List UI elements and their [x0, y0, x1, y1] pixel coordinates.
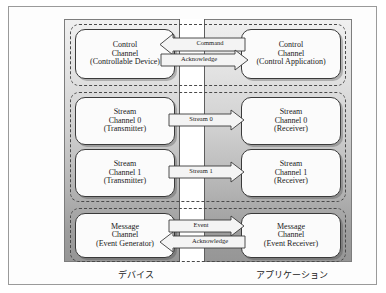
arrow-acknowledge-message-label: Acknowledge: [179, 238, 241, 245]
arrow-event: Event: [169, 218, 245, 234]
node-line-3: (Control Application): [256, 58, 325, 67]
node-line-3: (Receiver): [274, 177, 308, 186]
arrow-acknowledge-control: Acknowledge: [161, 52, 249, 68]
arrow-event-label: Event: [174, 222, 228, 229]
arrow-acknowledge-control-label: Acknowledge: [167, 56, 231, 63]
arrow-command-label: Command: [179, 40, 241, 47]
node-line-3: (Controllable Device): [90, 58, 160, 67]
arrow-stream-0-label: Stream 0: [174, 116, 228, 123]
node-stream-channel-1-transmitter[interactable]: Stream Channel 1 (Transmitter): [75, 149, 175, 197]
figure-frame: Control Channel (Controllable Device) Co…: [8, 6, 377, 285]
arrow-command: Command: [159, 37, 245, 52]
node-stream-channel-0-receiver[interactable]: Stream Channel 0 (Receiver): [241, 97, 341, 145]
region-label-application: アプリケーション: [237, 268, 347, 281]
arrow-stream-1: Stream 1: [169, 164, 245, 180]
node-line-3: (Receiver): [274, 125, 308, 134]
figure-root: Control Channel (Controllable Device) Co…: [0, 0, 386, 293]
node-stream-channel-1-receiver[interactable]: Stream Channel 1 (Receiver): [241, 149, 341, 197]
arrow-stream-1-label: Stream 1: [174, 168, 228, 175]
arrow-stream-0: Stream 0: [169, 112, 245, 128]
node-control-channel-control-application[interactable]: Control Channel (Control Application): [241, 29, 341, 79]
node-line-3: (Event Generator): [96, 240, 154, 249]
region-label-device: デバイス: [91, 268, 181, 281]
arrow-acknowledge-message: Acknowledge: [159, 234, 245, 250]
node-line-3: (Transmitter): [104, 125, 146, 134]
node-stream-channel-0-transmitter[interactable]: Stream Channel 0 (Transmitter): [75, 97, 175, 145]
node-line-3: (Transmitter): [104, 177, 146, 186]
node-line-3: (Event Receiver): [264, 240, 318, 249]
node-message-channel-event-receiver[interactable]: Message Channel (Event Receiver): [241, 213, 341, 258]
